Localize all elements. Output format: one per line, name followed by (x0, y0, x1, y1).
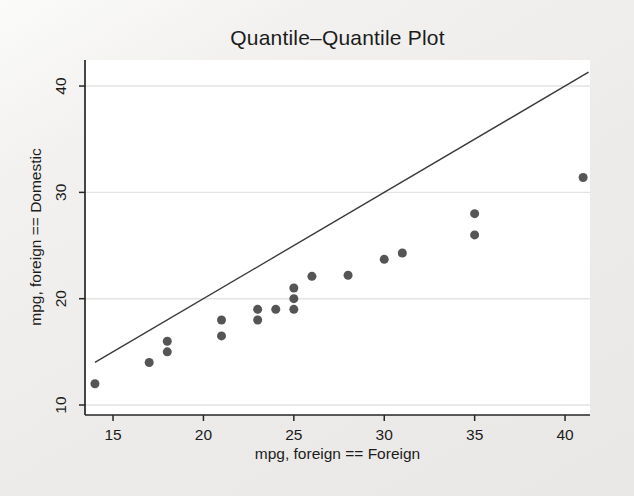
scatter-point-9 (289, 305, 298, 314)
y-axis-label: mpg, foreign == Domestic (27, 148, 45, 325)
scatter-point-10 (289, 294, 298, 303)
x-tick-label-40: 40 (556, 426, 574, 443)
x-tick-label-20: 20 (195, 426, 213, 443)
chart-canvas: 10203040152025303540 (0, 0, 634, 496)
scatter-point-8 (271, 305, 280, 314)
scatter-point-18 (579, 173, 588, 182)
scatter-point-13 (344, 271, 353, 280)
scatter-point-12 (307, 272, 316, 281)
scatter-point-7 (253, 305, 262, 314)
scatter-point-14 (380, 255, 389, 264)
y-tick-label-10: 10 (53, 396, 70, 414)
y-tick-label-20: 20 (53, 290, 70, 308)
scatter-point-11 (289, 284, 298, 293)
scatter-point-1 (145, 358, 154, 367)
scatter-point-17 (470, 209, 479, 218)
scatter-point-5 (217, 315, 226, 324)
y-tick-label-40: 40 (53, 77, 70, 95)
scatter-point-0 (90, 379, 99, 388)
qq-plot-figure: 10203040152025303540 Quantile–Quantile P… (0, 0, 634, 496)
x-tick-label-30: 30 (376, 426, 394, 443)
x-tick-label-35: 35 (466, 426, 483, 443)
x-tick-label-15: 15 (104, 426, 121, 443)
x-tick-label-25: 25 (285, 426, 302, 443)
scatter-point-16 (470, 230, 479, 239)
y-tick-label-30: 30 (53, 183, 70, 201)
scatter-point-2 (163, 347, 172, 356)
chart-title: Quantile–Quantile Plot (85, 26, 590, 50)
x-axis-label: mpg, foreign == Foreign (85, 445, 590, 463)
identity-reference-line (95, 72, 589, 362)
scatter-point-6 (253, 315, 262, 324)
scatter-point-3 (163, 337, 172, 346)
scatter-point-15 (398, 248, 407, 257)
scatter-point-4 (217, 331, 226, 340)
